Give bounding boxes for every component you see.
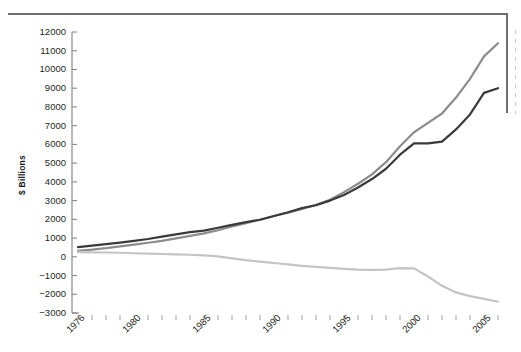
y-tick-label: 7000 bbox=[22, 120, 66, 131]
chart-figure: $ Billions 12000110001000090008000700060… bbox=[0, 0, 521, 352]
y-tick-label: 11000 bbox=[22, 45, 66, 56]
line-series-dark-gray bbox=[78, 88, 498, 247]
y-tick-label: 10000 bbox=[22, 63, 66, 74]
y-tick-label: 8000 bbox=[22, 101, 66, 112]
y-tick-label: 6000 bbox=[22, 138, 66, 149]
y-tick-label: 3000 bbox=[22, 195, 66, 206]
y-tick-label: −1000 bbox=[22, 270, 66, 281]
y-tick-label: 9000 bbox=[22, 82, 66, 93]
y-tick-label: −3000 bbox=[22, 307, 66, 318]
y-tick-label: 4000 bbox=[22, 176, 66, 187]
y-tick-label: 12000 bbox=[22, 26, 66, 37]
y-tick-label: 2000 bbox=[22, 213, 66, 224]
line-series-light-gray bbox=[78, 252, 498, 302]
y-tick-label: 0 bbox=[22, 251, 66, 262]
line-series-medium-gray bbox=[78, 43, 498, 251]
y-tick-label: −2000 bbox=[22, 288, 66, 299]
y-tick-label: 5000 bbox=[22, 157, 66, 168]
plot-area bbox=[0, 0, 521, 352]
y-tick-label: 1000 bbox=[22, 232, 66, 243]
